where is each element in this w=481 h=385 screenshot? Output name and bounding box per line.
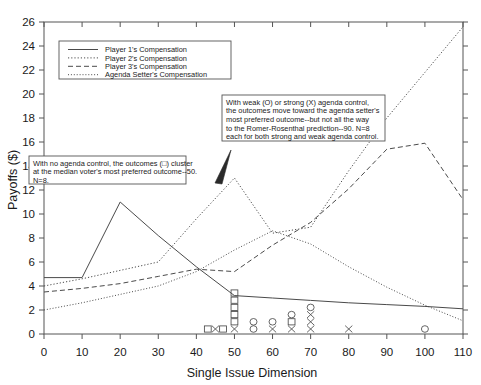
y-axis-title: Payoffs ($) [6, 150, 20, 210]
x-tick-label: 110 [454, 346, 472, 358]
y-tick-label: 22 [22, 64, 35, 76]
annotation-right-line-4: to the Romer-Rosenthal prediction--90. N… [226, 124, 370, 133]
x-tick-label: 60 [266, 346, 279, 358]
annotation-right-line-1: With weak (O) or strong (X) agenda contr… [226, 98, 369, 107]
annotation-right-line-3: most preferred outcome--but not all the … [226, 115, 369, 124]
y-tick-label: 18 [22, 112, 35, 124]
legend-label-4: Agenda Setter's Compensation [105, 70, 207, 79]
x-tick-label: 40 [190, 346, 203, 358]
x-tick-label: 70 [304, 346, 317, 358]
x-tick-label: 80 [342, 346, 355, 358]
x-tick-label: 90 [380, 346, 393, 358]
x-tick-label: 30 [152, 346, 165, 358]
y-tick-label: 12 [22, 184, 35, 196]
annotation-right-line-2: the outcomes move toward the agenda sett… [226, 106, 380, 115]
y-tick-label: 16 [22, 136, 35, 148]
x-tick-label: 20 [114, 346, 127, 358]
y-tick-label: 0 [29, 328, 35, 340]
y-tick-label: 10 [22, 208, 35, 220]
payoffs-line-chart: 02468101214161820222426 0102030405060708… [0, 0, 481, 385]
x-tick-label: 50 [228, 346, 241, 358]
annotation-left-line-2: at the median voter's most preferred out… [33, 167, 197, 176]
x-tick-label: 10 [76, 346, 89, 358]
x-axis-title: Single Issue Dimension [187, 366, 318, 380]
y-tick-label: 8 [29, 232, 35, 244]
y-tick-label: 26 [22, 16, 35, 28]
annotation-left: With no agenda control, the outcomes (□)… [29, 156, 197, 185]
annotation-left-line-3: N=8. [33, 176, 49, 185]
x-tick-label: 100 [415, 346, 434, 358]
annotation-left-line-1: With no agenda control, the outcomes (□)… [33, 159, 193, 168]
legend: Player 1's CompensationPlayer 2's Compen… [59, 41, 231, 79]
x-tick-label: 0 [41, 346, 47, 358]
y-tick-label: 4 [29, 280, 36, 292]
annotation-right-line-5: each for both strong and weak agenda con… [226, 132, 378, 141]
y-tick-label: 6 [29, 256, 35, 268]
y-tick-label: 20 [22, 88, 35, 100]
y-tick-label: 2 [29, 304, 35, 316]
chart-root: 02468101214161820222426 0102030405060708… [0, 0, 481, 385]
y-tick-label: 24 [22, 40, 35, 52]
